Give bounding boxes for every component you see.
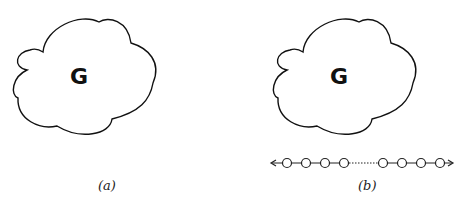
caption-b: (b) (358, 178, 376, 193)
path-chain (271, 159, 453, 168)
diagram-canvas (0, 0, 471, 203)
graph-label-b: G (330, 64, 348, 89)
graph-label-a: G (70, 64, 88, 89)
caption-a: (a) (98, 178, 116, 193)
